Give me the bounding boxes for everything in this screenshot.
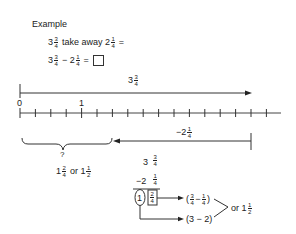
calc-row-1-whole: 3 — [143, 157, 148, 167]
mixed-number-whole: 3 — [48, 55, 53, 65]
fraction: 34 — [134, 74, 138, 87]
brace-question-mark: ? — [60, 150, 64, 160]
frac-expression: (34−14) — [186, 193, 210, 206]
calc-row-1-frac: 34 — [152, 154, 158, 167]
calc-row-2-whole: −2 — [136, 176, 146, 186]
example-heading: Example — [32, 19, 67, 29]
label-zero: 0 — [17, 98, 22, 108]
final-answer: or 112 — [231, 202, 253, 215]
diagram-lines — [0, 0, 296, 234]
answer-text: 124 or 112 — [56, 165, 92, 178]
arrowhead-icon — [178, 217, 184, 221]
fraction: 14 — [187, 126, 191, 139]
operation-text: take away — [62, 37, 103, 47]
top-arrow-label: 334 — [128, 74, 139, 87]
whole-expression: (3 − 2) — [186, 214, 212, 224]
merge-line-bottom — [214, 207, 228, 217]
fraction: 12 — [86, 165, 90, 178]
arrowhead-icon — [245, 91, 252, 96]
mixed-number-whole: 3 — [48, 37, 53, 47]
fraction: 24 — [62, 165, 66, 178]
whole-arrow — [140, 206, 180, 220]
mixed-number-whole: 2 — [105, 37, 110, 47]
fraction: 34 — [54, 54, 58, 67]
fraction: 14 — [76, 54, 80, 67]
problem-line-2: 334 − 214 = — [48, 54, 104, 67]
equals-sign: = — [84, 55, 89, 65]
fraction: 14 — [111, 36, 115, 49]
result-whole: 1 — [137, 193, 142, 203]
answer-box — [93, 55, 104, 66]
minus-sign: − — [62, 55, 67, 65]
merge-line-top — [214, 199, 228, 207]
mixed-number-whole: 2 — [70, 55, 75, 65]
equals-sign: = — [119, 37, 124, 47]
calc-row-2-frac: 14 — [152, 173, 158, 186]
label-one: 1 — [79, 98, 84, 108]
back-arrow-label: −214 — [176, 126, 193, 139]
arrowhead-left-icon — [113, 139, 120, 144]
problem-line-1: 334 take away 214 = — [48, 36, 124, 49]
brace-icon — [22, 138, 112, 150]
result-frac: 24 — [149, 191, 155, 204]
arrowhead-icon — [178, 196, 184, 200]
fraction: 34 — [54, 36, 58, 49]
